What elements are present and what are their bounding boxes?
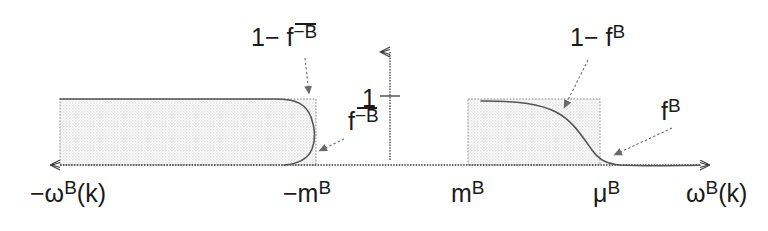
label-one-minus-fbar-base: 1− f [251,23,293,51]
label-one-minus-f-sup: B [612,21,625,42]
x-label-neg-omega: −ωB(k) [30,180,106,206]
antiparticle-filled-region [60,99,316,165]
particle-filled-region [468,99,600,165]
label-fbar-sup: −B [355,105,379,126]
x-label-chem-pot: μB [593,180,620,206]
x-label-chem-pot-base: μ [593,179,607,207]
label-one-minus-fbar: 1− f−B [251,24,317,50]
x-label-pos-mass: mB [451,180,485,206]
x-label-pos-omega-base: ω [686,179,706,207]
x-label-neg-omega-sup: B [64,177,77,198]
x-label-chem-pot-sup: B [607,177,620,198]
label-f-sup: B [668,95,681,116]
label-f: fB [661,98,681,124]
leader-f [614,128,672,155]
x-label-pos-omega-tail: (k) [718,179,747,207]
x-label-pos-mass-base: m [451,179,472,207]
x-label-pos-omega: ωB(k) [686,180,747,206]
leader-one-minus-fbar [305,58,309,94]
x-label-pos-mass-sup: B [472,177,485,198]
label-fbar: f−B [348,108,379,134]
fermi-occupation-figure [0,0,768,231]
x-label-neg-mass-base: −m [283,179,318,207]
x-label-pos-omega-sup: B [706,177,719,198]
x-label-neg-mass-sup: B [318,177,331,198]
label-one-minus-f-base: 1− f [570,23,612,51]
x-label-neg-omega-base: −ω [30,179,64,207]
x-label-neg-omega-tail: (k) [77,179,106,207]
leader-fbar [319,139,344,151]
x-label-neg-mass: −mB [283,180,331,206]
label-one-minus-fbar-sup: −B [293,21,317,42]
label-fbar-base: f [348,107,355,135]
label-one-minus-f: 1− fB [570,24,625,50]
label-f-base: f [661,97,668,125]
